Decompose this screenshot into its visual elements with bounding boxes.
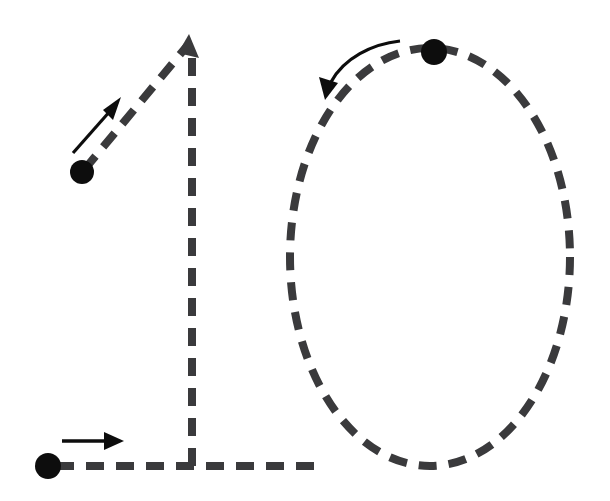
oval-direction-arrowhead-icon <box>319 77 338 100</box>
diagonal-direction-arrow <box>73 97 121 153</box>
tracing-diagram <box>0 0 610 501</box>
oval-direction-arrow <box>319 41 400 100</box>
diagonal-flag-stroke <box>84 46 187 170</box>
digit-one-group <box>35 34 320 479</box>
oval-stroke <box>290 48 570 466</box>
start-dot-baseline <box>35 453 61 479</box>
start-dot-oval <box>421 39 447 65</box>
start-dot-diagonal <box>70 160 94 184</box>
baseline-direction-arrow <box>62 432 124 450</box>
digit-zero-group <box>290 39 570 466</box>
baseline-direction-arrowhead-icon <box>104 432 124 450</box>
worksheet-canvas <box>0 0 610 501</box>
